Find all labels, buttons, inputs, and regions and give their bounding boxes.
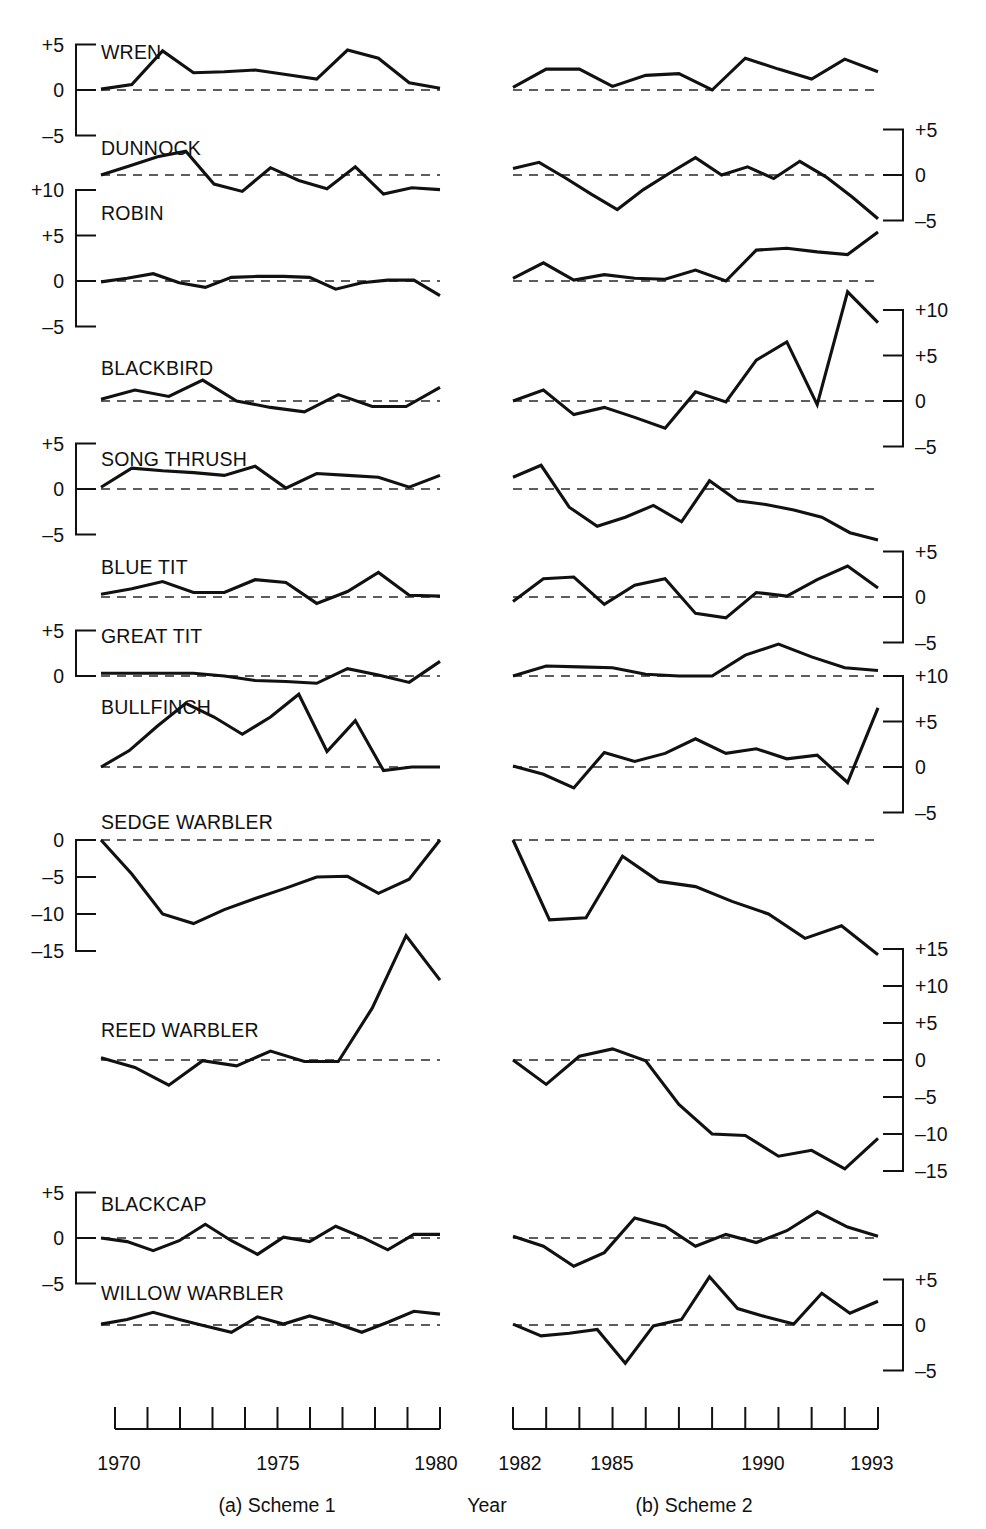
axis-tick-label: 0 bbox=[915, 390, 926, 412]
y-axis-blackcap: +50–5 bbox=[42, 1182, 96, 1295]
species-label-willow-warbler: WILLOW WARBLER bbox=[101, 1282, 284, 1304]
axis-tick-label: –15 bbox=[31, 940, 64, 962]
series-line-scheme1 bbox=[101, 840, 440, 924]
axis-tick-label: –15 bbox=[915, 1160, 948, 1182]
axis-tick-label: –10 bbox=[31, 903, 64, 925]
series-line-scheme2 bbox=[513, 1049, 878, 1169]
y-axis-sedge-warbler: 0–5–10–15 bbox=[31, 829, 96, 962]
axis-tick-label: –5 bbox=[42, 125, 64, 147]
axis-tick-label: –5 bbox=[915, 210, 937, 232]
axis-tick-label: 0 bbox=[53, 829, 64, 851]
axis-tick-label: +10 bbox=[915, 975, 948, 997]
species-panel-sedge-warbler bbox=[101, 840, 878, 955]
axis-tick-label: 0 bbox=[915, 1314, 926, 1336]
species-label-blackcap: BLACKCAP bbox=[101, 1193, 207, 1215]
y-axis-bullfinch: +10+50–5 bbox=[883, 665, 948, 824]
year-label-1970: 1970 bbox=[97, 1452, 141, 1474]
axis-tick-label: –5 bbox=[42, 866, 64, 888]
series-line-scheme2 bbox=[513, 465, 878, 540]
species-label-wren: WREN bbox=[101, 41, 161, 63]
species-panel-reed-warbler bbox=[101, 936, 878, 1169]
axis-tick-label: +5 bbox=[42, 433, 64, 455]
series-line-scheme1 bbox=[101, 936, 440, 1085]
axis-bracket bbox=[76, 631, 96, 677]
axis-tick-label: +5 bbox=[42, 1182, 64, 1204]
species-label-reed-warbler: REED WARBLER bbox=[101, 1019, 259, 1041]
y-axis-reed-warbler: +15+10+50–5–10–15 bbox=[883, 938, 948, 1182]
y-axis-blackbird: +10+50–5 bbox=[883, 299, 948, 458]
axis-tick-label: 0 bbox=[53, 478, 64, 500]
axis-tick-label: +10 bbox=[915, 665, 948, 687]
axis-tick-label: +5 bbox=[42, 225, 64, 247]
axis-tick-label: 0 bbox=[915, 164, 926, 186]
axis-tick-label: 0 bbox=[53, 270, 64, 292]
series-line-scheme2 bbox=[513, 58, 878, 90]
x-axis-scheme2 bbox=[513, 1407, 878, 1429]
y-axis-dunnock: +50–5 bbox=[883, 119, 937, 232]
year-label-1982: 1982 bbox=[498, 1452, 541, 1474]
y-axis-willow-warbler: +50–5 bbox=[883, 1269, 937, 1382]
series-line-scheme1 bbox=[101, 1311, 440, 1332]
axis-tick-label: –5 bbox=[42, 316, 64, 338]
x-axis-scheme1 bbox=[115, 1407, 440, 1429]
y-axis-robin: +10+50–5 bbox=[31, 179, 96, 338]
axis-bracket bbox=[883, 310, 903, 447]
axis-tick-label: +5 bbox=[42, 34, 64, 56]
series-line-scheme2 bbox=[513, 708, 878, 788]
axis-tick-label: 0 bbox=[915, 756, 926, 778]
year-label-1985: 1985 bbox=[590, 1452, 634, 1474]
series-line-scheme2 bbox=[513, 644, 878, 676]
species-label-great-tit: GREAT TIT bbox=[101, 625, 202, 647]
axis-tick-label: –5 bbox=[915, 1086, 937, 1108]
species-panel-blackbird bbox=[101, 292, 878, 429]
series-line-scheme2 bbox=[513, 232, 878, 281]
species-label-sedge-warbler: SEDGE WARBLER bbox=[101, 811, 273, 833]
axis-tick-label: +5 bbox=[915, 1269, 937, 1291]
axis-tick-label: –5 bbox=[915, 632, 937, 654]
axis-tick-label: 0 bbox=[53, 665, 64, 687]
caption-scheme2: (b) Scheme 2 bbox=[635, 1494, 752, 1516]
axis-tick-label: –5 bbox=[915, 1360, 937, 1382]
species-label-blackbird: BLACKBIRD bbox=[101, 357, 213, 379]
species-panel-robin bbox=[101, 232, 878, 296]
year-label-1980: 1980 bbox=[414, 1452, 458, 1474]
axis-tick-label: 0 bbox=[53, 1227, 64, 1249]
species-label-robin: ROBIN bbox=[101, 202, 164, 224]
axis-tick-label: +5 bbox=[915, 345, 937, 367]
series-line-scheme2 bbox=[513, 1277, 878, 1363]
bird-population-trend-figure: +50–5+50–5+10+50–5+10+50–5+50–5+50–5+50+… bbox=[0, 0, 986, 1529]
axis-tick-label: +5 bbox=[915, 541, 937, 563]
y-axis-great-tit: +50 bbox=[42, 620, 96, 688]
axis-tick-label: –5 bbox=[915, 436, 937, 458]
series-line-scheme2 bbox=[513, 158, 878, 219]
axis-tick-label: 0 bbox=[915, 1049, 926, 1071]
species-label-dunnock: DUNNOCK bbox=[101, 137, 201, 159]
species-panel-dunnock bbox=[101, 151, 878, 218]
axis-tick-label: –5 bbox=[42, 1273, 64, 1295]
y-axis-blue-tit: +50–5 bbox=[883, 541, 937, 654]
axis-bracket bbox=[76, 190, 96, 327]
axis-tick-label: +5 bbox=[42, 620, 64, 642]
axis-tick-label: 0 bbox=[53, 79, 64, 101]
year-label-1993: 1993 bbox=[850, 1452, 893, 1474]
series-line-scheme2 bbox=[513, 566, 878, 618]
series-line-scheme1 bbox=[101, 274, 440, 296]
x-axis-title: Year bbox=[467, 1494, 507, 1516]
axis-bracket bbox=[883, 676, 903, 813]
y-axis-wren: +50–5 bbox=[42, 34, 96, 147]
species-label-bullfinch: BULLFINCH bbox=[101, 696, 211, 718]
series-line-scheme1 bbox=[101, 661, 440, 683]
species-label-blue-tit: BLUE TIT bbox=[101, 556, 188, 578]
species-panel-blue-tit bbox=[101, 566, 878, 618]
axis-tick-label: +10 bbox=[31, 179, 64, 201]
axis-tick-label: +10 bbox=[915, 299, 948, 321]
caption-scheme1: (a) Scheme 1 bbox=[218, 1494, 335, 1516]
series-line-scheme1 bbox=[101, 380, 440, 412]
species-panel-song-thrush bbox=[101, 465, 878, 540]
year-label-1975: 1975 bbox=[256, 1452, 300, 1474]
species-panel-wren bbox=[101, 50, 878, 90]
year-label-1990: 1990 bbox=[741, 1452, 785, 1474]
axis-tick-label: –5 bbox=[915, 802, 937, 824]
series-line-scheme2 bbox=[513, 292, 878, 429]
axis-tick-label: +5 bbox=[915, 711, 937, 733]
